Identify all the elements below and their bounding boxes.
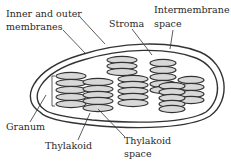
thylakoid-space-leader — [98, 109, 125, 137]
granum-stack — [118, 75, 148, 106]
granum-stack — [159, 82, 185, 112]
intermembrane-leader — [170, 30, 173, 49]
chloroplast-diagram: Inner and outer membranes Stroma Interme… — [0, 0, 231, 163]
granum-stack — [83, 78, 113, 111]
membranes-leader-2 — [63, 30, 85, 53]
membranes-leader — [80, 17, 105, 44]
label-thylakoid-space-2: space — [124, 148, 152, 159]
label-intermembrane-1: Intermembrane — [154, 4, 230, 15]
granum-bracket — [52, 76, 55, 106]
granum-stack — [107, 56, 137, 75]
label-granum: Granum — [6, 121, 45, 132]
label-thylakoid-space-1: Thylakoid — [124, 135, 171, 146]
thylakoid-leader — [78, 113, 90, 140]
label-stroma: Stroma — [109, 18, 145, 29]
granum-stack-bracketed — [56, 72, 86, 107]
label-thylakoid: Thylakoid — [45, 140, 92, 151]
label-intermembrane-2: space — [154, 18, 182, 29]
label-membranes-2: membranes — [6, 21, 63, 32]
label-membranes-1: Inner and outer — [6, 8, 82, 19]
